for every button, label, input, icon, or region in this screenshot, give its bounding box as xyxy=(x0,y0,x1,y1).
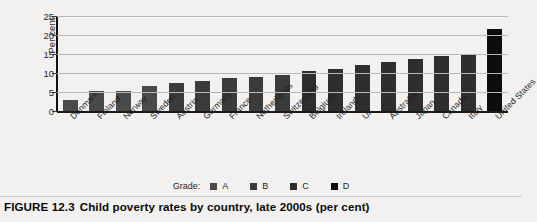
legend-label: C xyxy=(302,181,309,191)
y-axis-tick-label: 0 xyxy=(20,106,54,117)
bar xyxy=(487,29,502,111)
chart-legend: Grade: ABCD xyxy=(0,178,522,194)
y-axis-tickmark xyxy=(52,54,57,55)
chart-plot-area: Per cent 0510152025 DenmarkFinlandNorway… xyxy=(0,0,522,176)
legend-label: D xyxy=(343,181,350,191)
legend-swatch xyxy=(210,183,217,190)
legend-label: B xyxy=(262,181,268,191)
y-axis-tick-label: 25 xyxy=(20,11,54,22)
gridline xyxy=(57,73,508,74)
gridline xyxy=(57,92,508,93)
y-axis-tickmark xyxy=(52,35,57,36)
gridline xyxy=(57,35,508,36)
legend-item: D xyxy=(331,181,350,191)
bar xyxy=(381,62,396,111)
y-axis-tick-label: 20 xyxy=(20,30,54,41)
gridline xyxy=(57,54,508,55)
x-axis-baseline xyxy=(57,111,508,113)
caption-divider xyxy=(0,196,522,197)
x-axis-category-labels: DenmarkFinlandNorwaySwedenAustriaGermany… xyxy=(57,112,508,176)
y-axis-tickmark xyxy=(52,111,57,112)
y-axis-tick-label: 5 xyxy=(20,87,54,98)
figure-caption: FIGURE 12.3Child poverty rates by countr… xyxy=(4,200,518,213)
figure-number: FIGURE 12.3 xyxy=(4,200,75,213)
legend-swatch xyxy=(250,183,257,190)
legend-label: A xyxy=(222,181,228,191)
legend-item: A xyxy=(210,181,228,191)
legend-item: C xyxy=(290,181,309,191)
figure-title: Child poverty rates by country, late 200… xyxy=(80,200,370,213)
legend-item: B xyxy=(250,181,268,191)
y-axis-tickmark xyxy=(52,16,57,17)
y-axis-tick-label: 15 xyxy=(20,49,54,60)
legend-swatch xyxy=(290,183,297,190)
y-axis-tickmark xyxy=(52,92,57,93)
legend-title: Grade: xyxy=(173,181,201,191)
gridline xyxy=(57,16,508,17)
legend-swatch xyxy=(331,183,338,190)
y-axis-tickmark xyxy=(52,73,57,74)
y-axis-tick-labels: 0510152025 xyxy=(18,0,54,176)
y-axis-tick-label: 10 xyxy=(20,68,54,79)
